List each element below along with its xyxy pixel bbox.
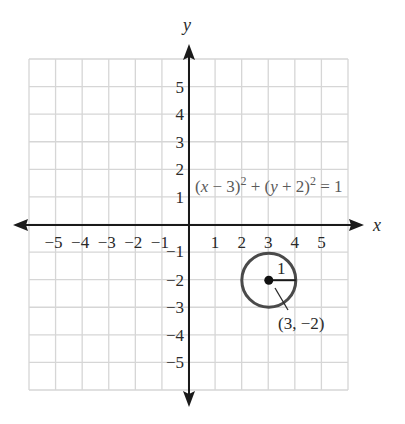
circle-plot: 1 (3, −2): [242, 253, 325, 333]
y-tick-label: −1: [166, 242, 184, 261]
x-tick-label: 3: [264, 233, 273, 252]
coordinate-graph: x y −5−4−3−2−112345 54321−1−2−3−4−5 (x −…: [0, 0, 405, 424]
radius-label: 1: [277, 259, 286, 278]
x-tick-label: −4: [71, 233, 90, 252]
axes: x y: [13, 15, 381, 407]
y-tick-label: 1: [176, 188, 185, 207]
y-tick-label: 3: [176, 133, 185, 152]
x-tick-label: 2: [237, 233, 246, 252]
x-tick-label: −5: [45, 233, 63, 252]
y-tick-label: −2: [166, 271, 184, 290]
x-tick-label: 1: [211, 233, 220, 252]
x-tick-labels: −5−4−3−2−112345: [45, 233, 326, 252]
x-axis-right-arrow-icon: [349, 219, 364, 231]
y-tick-label: 5: [176, 78, 185, 97]
x-axis-label: x: [372, 215, 381, 235]
x-tick-label: −3: [98, 233, 116, 252]
x-tick-label: 4: [291, 233, 300, 252]
circle-equation: (x − 3)2 + (y + 2)2 = 1: [195, 174, 343, 196]
x-axis-left-arrow-icon: [13, 219, 28, 231]
x-tick-label: 5: [317, 233, 326, 252]
y-tick-label: −4: [166, 326, 185, 345]
y-tick-label: −3: [166, 298, 184, 317]
center-point: [264, 276, 273, 285]
center-label: (3, −2): [278, 314, 324, 333]
y-tick-label: 4: [176, 105, 185, 124]
y-tick-label: 2: [176, 160, 185, 179]
x-tick-label: −2: [124, 233, 142, 252]
y-axis-label: y: [181, 15, 191, 35]
y-tick-label: −5: [166, 353, 184, 372]
